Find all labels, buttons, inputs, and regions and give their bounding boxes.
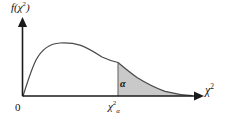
critical-value-exponent: 2 [113,99,116,106]
critical-value-tick-label: χ2α [108,101,120,112]
y-axis-arrow-icon [18,17,27,27]
critical-value-subscript: α [116,107,120,114]
y-axis-label: f(χ2) [11,2,30,13]
x-axis-label: χ2 [205,84,214,96]
alpha-area-label: α [120,79,126,89]
y-axis-label-paren-close: ) [26,1,30,13]
origin-tick-label: 0 [15,102,21,113]
alpha-tail-shaded-area [118,63,192,97]
x-axis-label-exponent: 2 [210,82,214,91]
chi-square-density-curve [23,43,192,96]
x-axis-arrow-icon [194,91,204,100]
chi-square-distribution-figure: f(χ2) χ2 0 χ2α α [0,0,227,125]
